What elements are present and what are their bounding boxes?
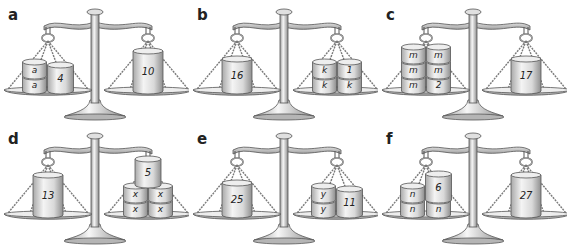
panel-label: d (8, 130, 19, 148)
weight-label: 17 (520, 70, 533, 81)
weight-label: m (434, 65, 443, 75)
weight-label: 4 (57, 73, 63, 84)
scale-post (280, 137, 288, 227)
weight-label: 27 (520, 190, 533, 201)
weight-cylinder: 4 (48, 62, 74, 94)
weight-label: 13 (42, 190, 55, 201)
weight-label: y (320, 204, 327, 214)
post-knob (87, 133, 103, 139)
weight-label: m (409, 50, 418, 60)
scale-panel-d: 13xxxx5 d (0, 124, 189, 248)
weight-cylinder: 5 (135, 156, 161, 188)
panel-label: c (386, 6, 395, 24)
scale-post (280, 13, 288, 103)
weight-cylinder: 11 (337, 186, 363, 218)
weight-label: k (347, 80, 353, 90)
weight-label: 25 (231, 194, 244, 205)
weight-cylinder: 6 (426, 171, 452, 203)
right-weights: 10 (133, 48, 163, 94)
left-pan-assembly: nnn6 (382, 151, 470, 219)
weight-label: m (434, 50, 443, 60)
balance-scales-figure: a4a10 a 16kkk1 b m2mmmm17 c 13xxxx5 d 25… (0, 0, 568, 249)
weight-cylinder: 13 (33, 172, 63, 218)
right-weights: xxxx5 (124, 156, 173, 218)
weight-label: n (410, 204, 416, 214)
weight-label: 11 (343, 197, 356, 208)
right-weights: 17 (511, 56, 541, 94)
scale-panel-c: m2mmmm17 c (378, 0, 567, 124)
right-pan-assembly: y11y (293, 151, 378, 219)
balance-scale-f: nnn627 (378, 124, 567, 248)
panel-label: f (386, 130, 393, 148)
left-weights: m2mmmm (402, 44, 451, 94)
left-pan-assembly: 13 (4, 151, 92, 219)
weight-label: 16 (231, 70, 244, 81)
weight-label: m (409, 65, 418, 75)
weight-cylinder: m (402, 44, 426, 64)
weight-cylinder: 10 (133, 48, 163, 94)
post-knob (276, 9, 292, 15)
left-pan-assembly: a4a (4, 27, 92, 95)
scale-post (469, 137, 477, 227)
left-pan-assembly: 25 (193, 151, 281, 219)
post-knob (276, 133, 292, 139)
balance-scale-d: 13xxxx5 (0, 124, 189, 248)
weight-label: 2 (436, 80, 442, 90)
scale-post (91, 137, 99, 227)
balance-scale-c: m2mmmm17 (378, 0, 567, 124)
weight-label: y (320, 189, 327, 199)
right-pan-assembly: 27 (482, 151, 567, 219)
weight-cylinder: y (312, 183, 336, 203)
scale-post (91, 13, 99, 103)
weight-label: x (132, 189, 139, 199)
left-weights: 25 (222, 180, 252, 218)
weight-cylinder: 16 (222, 56, 252, 94)
weight-cylinder: 17 (511, 56, 541, 94)
right-pan-assembly: kkk1 (293, 27, 378, 95)
panel-label: a (8, 6, 18, 24)
post-knob (87, 9, 103, 15)
weight-label: n (410, 189, 416, 199)
scale-post (469, 13, 477, 103)
post-knob (465, 133, 481, 139)
weight-cylinder: 1 (338, 59, 362, 79)
left-weights: 13 (33, 172, 63, 218)
weight-cylinder: m (427, 44, 451, 64)
right-weights: 27 (511, 172, 541, 218)
scale-panel-b: 16kkk1 b (189, 0, 378, 124)
left-weights: a4a (23, 59, 74, 94)
weight-label: 10 (142, 66, 155, 77)
left-pan-assembly: m2mmmm (382, 27, 470, 95)
weight-label: n (436, 204, 442, 214)
weight-cylinder: 27 (511, 172, 541, 218)
weight-label: 5 (145, 167, 151, 178)
right-pan-assembly: 17 (482, 27, 567, 95)
weight-label: 6 (435, 182, 441, 193)
balance-scale-a: a4a10 (0, 0, 189, 124)
weight-label: x (132, 204, 139, 214)
weight-label: k (322, 80, 328, 90)
panel-label: e (197, 130, 207, 148)
right-pan-assembly: 10 (104, 27, 189, 95)
weight-label: a (32, 80, 38, 90)
weight-label: a (32, 65, 38, 75)
right-weights: y11y (312, 183, 363, 218)
weight-label: m (409, 80, 418, 90)
scale-panel-f: nnn627 f (378, 124, 567, 248)
weight-cylinder: a (23, 59, 47, 79)
weight-cylinder: 25 (222, 180, 252, 218)
left-pan-assembly: 16 (193, 27, 281, 95)
balance-scale-b: 16kkk1 (189, 0, 378, 124)
weight-label: k (322, 65, 328, 75)
weight-cylinder: n (401, 183, 425, 203)
balance-scale-e: 25y11y (189, 124, 378, 248)
panel-label: b (197, 6, 208, 24)
left-weights: 16 (222, 56, 252, 94)
weight-label: x (157, 204, 164, 214)
scale-panel-a: a4a10 a (0, 0, 189, 124)
weight-label: 1 (347, 65, 353, 75)
weight-cylinder: k (313, 59, 337, 79)
weight-label: x (157, 189, 164, 199)
post-knob (465, 9, 481, 15)
scale-panel-e: 25y11y e (189, 124, 378, 248)
